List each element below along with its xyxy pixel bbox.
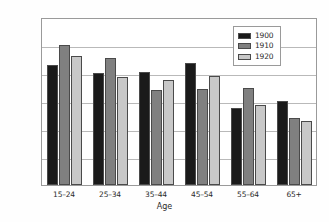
bar-group	[45, 19, 91, 185]
legend-item-1920: 1920	[238, 52, 276, 62]
bar-group	[137, 19, 183, 185]
bar-1920-35–44	[163, 80, 174, 185]
legend-item-1900: 1900	[238, 31, 276, 41]
legend-swatch-icon	[238, 33, 251, 39]
bar-chart: Rate 0%20%40%60%80%100%120% 15–2425–3435…	[0, 0, 329, 222]
bar-1910-55–64	[243, 88, 254, 185]
bar-1910-65+	[289, 118, 300, 185]
bar-1920-45–54	[209, 76, 220, 185]
bar-1910-15–24	[59, 45, 70, 185]
bar-1920-55–64	[255, 105, 266, 186]
bar-1920-15–24	[71, 56, 82, 185]
legend-swatch-icon	[238, 54, 251, 60]
legend-label: 1920	[255, 53, 273, 61]
bar-1900-45–54	[185, 63, 196, 185]
bar-1900-65+	[277, 101, 288, 185]
y-axis-title: Rate	[0, 83, 1, 101]
x-axis-tick-label: 65+	[264, 190, 324, 199]
bar-1900-35–44	[139, 72, 150, 185]
bar-1910-25–34	[105, 58, 116, 185]
legend-item-1910: 1910	[238, 41, 276, 51]
bar-1910-45–54	[197, 89, 208, 185]
bar-1900-55–64	[231, 108, 242, 185]
bar-1900-25–34	[93, 73, 104, 185]
legend-label: 1900	[255, 32, 273, 40]
bar-1920-65+	[301, 121, 312, 185]
bar-1900-15–24	[47, 65, 58, 185]
bar-group	[91, 19, 137, 185]
bar-group	[183, 19, 229, 185]
bar-1920-25–34	[117, 77, 128, 185]
bar-1910-35–44	[151, 90, 162, 185]
legend: 190019101920	[233, 26, 281, 66]
legend-swatch-icon	[238, 43, 251, 49]
bar-group	[275, 19, 321, 185]
legend-label: 1910	[255, 42, 273, 50]
x-axis-title: Age	[0, 202, 329, 211]
